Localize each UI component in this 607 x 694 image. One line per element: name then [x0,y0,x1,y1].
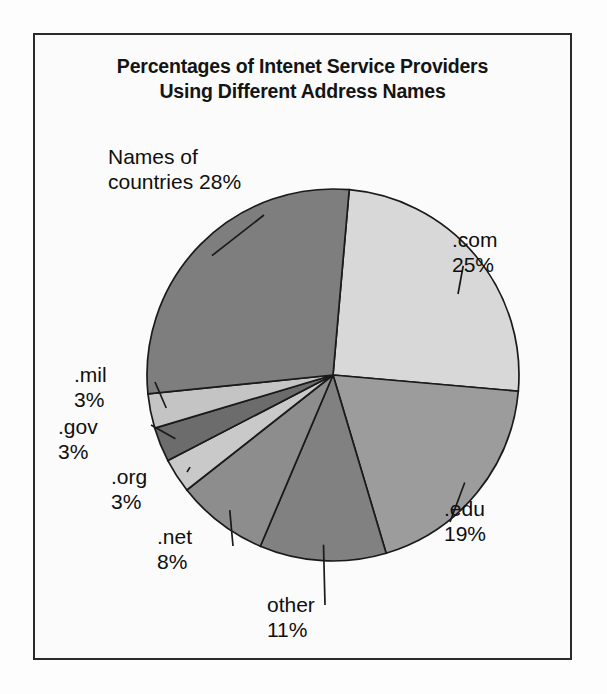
slice-label-net-value: 8% [157,549,192,574]
slice-label-mil-name: .mil [74,362,107,387]
slice-label-com: .com 25% [452,227,498,277]
slice-label-org-name: .org [111,464,147,489]
slice-label-mil: .mil 3% [74,362,107,412]
slice-label-names-of-countries-line-1: Names of [108,144,241,169]
slice-label-gov: .gov 3% [58,414,98,464]
slice-label-org-value: 3% [111,489,147,514]
slice-label-other: other 11% [267,592,315,642]
slice-label-edu: .edu 19% [444,496,486,546]
slice-label-gov-name: .gov [58,414,98,439]
pie-slice-names-of-countries [147,189,349,394]
slice-label-org: .org 3% [111,464,147,514]
slice-label-com-name: .com [452,227,498,252]
pie-chart [33,33,572,660]
scanned-page: Percentages of Intenet Service Providers… [0,0,607,694]
slice-label-names-of-countries-line-2: countries 28% [108,169,241,194]
pie-slice-dot-com [333,190,519,391]
slice-label-com-value: 25% [452,252,498,277]
slice-label-mil-value: 3% [74,387,107,412]
slice-label-edu-name: .edu [444,496,486,521]
slice-label-edu-value: 19% [444,521,486,546]
slice-label-net: .net 8% [157,524,192,574]
slice-label-names-of-countries: Names of countries 28% [108,144,241,194]
pie-chart-svg [33,33,572,660]
slice-label-other-name: other [267,592,315,617]
slice-label-gov-value: 3% [58,439,98,464]
slice-label-net-name: .net [157,524,192,549]
slice-label-other-value: 11% [267,617,315,642]
